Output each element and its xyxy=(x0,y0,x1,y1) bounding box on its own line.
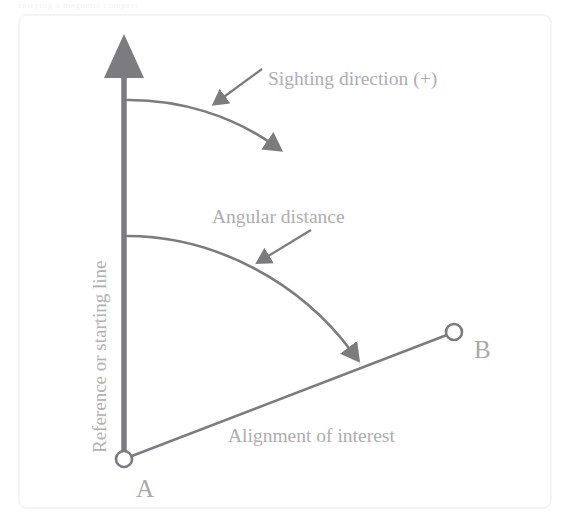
sighting-direction-leader xyxy=(221,69,262,99)
reference-line-label: Reference or starting line xyxy=(89,260,110,453)
alignment-of-interest-label: Alignment of interest xyxy=(228,425,395,446)
figure-root: carrying a magnetic compass xyxy=(0,0,570,524)
angular-distance-arc xyxy=(124,236,352,352)
sighting-direction-label: Sighting direction (+) xyxy=(268,68,437,90)
point-b-marker xyxy=(446,324,462,340)
reference-or-starting-line xyxy=(104,34,144,459)
sighting-direction-arc xyxy=(124,100,272,144)
angular-distance-label: Angular distance xyxy=(212,206,345,227)
point-b-label: B xyxy=(474,336,491,363)
reference-line-arrowhead-icon xyxy=(104,34,144,78)
point-a-label: A xyxy=(136,475,154,502)
point-a-marker xyxy=(116,451,132,467)
angular-distance-diagram: Sighting direction (+) Angular distance … xyxy=(0,0,570,524)
angular-distance-leader xyxy=(265,230,311,258)
